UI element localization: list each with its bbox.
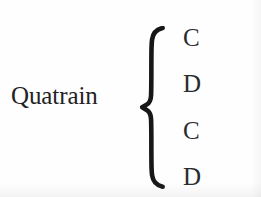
rhyme-scheme-letter: C <box>183 25 229 51</box>
rhyme-scheme-letter: D <box>183 164 229 190</box>
quatrain-term-label: Quatrain <box>11 83 98 108</box>
left-curly-brace-icon <box>140 26 166 190</box>
rhyme-scheme-letter: C <box>183 118 229 144</box>
rhyme-scheme-figure: Quatrain C D C D <box>0 0 261 197</box>
rhyme-scheme-letter-column: C D C D <box>183 25 229 190</box>
rhyme-scheme-letter: D <box>183 71 229 97</box>
scan-edge-shadow-right <box>251 0 261 197</box>
